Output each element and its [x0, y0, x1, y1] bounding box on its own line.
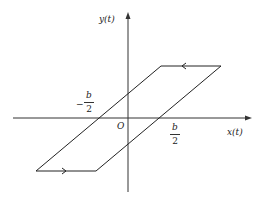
hysteresis-diagram	[0, 0, 263, 200]
x-axis	[13, 116, 252, 121]
x-axis-label: x(t)	[227, 128, 243, 137]
y-axis-label-text: y(t)	[99, 14, 115, 24]
fraction-bar	[84, 102, 94, 103]
y-axis	[126, 12, 131, 192]
x-axis-arrow-icon	[245, 116, 252, 121]
pos-half-b-numerator: b	[172, 123, 178, 132]
origin-label: O	[117, 122, 124, 131]
pos-half-b-denominator: 2	[172, 137, 178, 146]
neg-half-b-numerator: b	[86, 91, 92, 100]
neg-half-b-denominator: 2	[86, 105, 92, 114]
neg-half-b-fraction: b 2	[84, 91, 94, 114]
y-axis-label: y(t)	[99, 15, 115, 24]
y-axis-arrow-icon	[126, 12, 131, 19]
x-axis-label-text: x(t)	[227, 127, 243, 137]
pos-half-b-fraction: b 2	[170, 123, 180, 146]
neg-sign: −	[76, 100, 84, 109]
fraction-bar	[170, 134, 180, 135]
